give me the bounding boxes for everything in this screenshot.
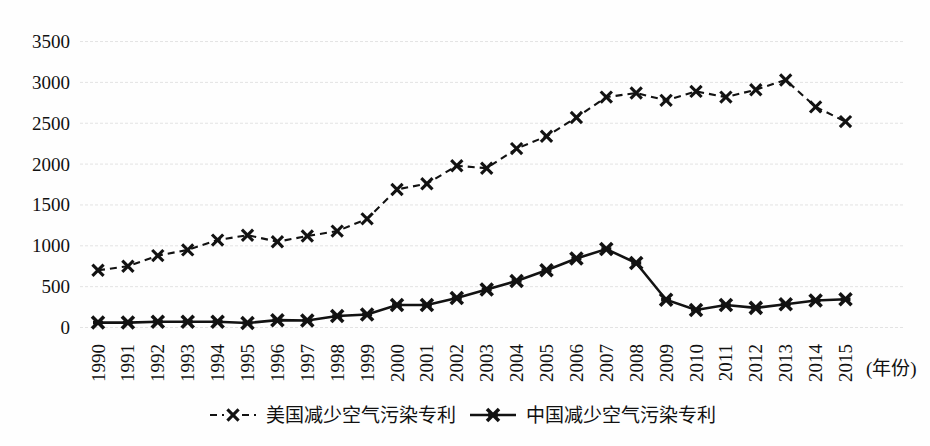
x-axis-unit-label-text: (年份) [866,358,917,380]
x-tick-label: 1992 [147,344,168,382]
y-axis-tick-labels: 0500100015002000250030003500 [32,31,70,338]
x-tick-label: 2002 [446,344,467,382]
x-tick-label: 2004 [506,344,527,383]
x-tick-label: 1999 [357,344,378,382]
x-axis-unit-label: (年份) [866,358,917,380]
x-tick-label: 2005 [536,344,557,382]
x-tick-label: 1994 [207,344,228,383]
y-tick-label: 1500 [32,194,70,215]
x-axis-tick-labels: 1990199119921993199419951996199719981999… [88,344,857,383]
x-tick-label: 2014 [805,344,826,383]
x-tick-label: 2003 [476,344,497,382]
x-tick-label: 2011 [715,344,736,381]
y-tick-label: 2500 [32,113,70,134]
series-line [98,80,846,270]
x-tick-label: 2015 [835,344,856,382]
legend-item-label: 美国减少空气污染专利 [266,405,456,426]
x-tick-label: 2001 [416,344,437,382]
x-tick-label: 1996 [267,344,288,382]
x-tick-label: 1997 [297,344,318,382]
x-tick-label: 2007 [596,344,617,382]
x-tick-label: 2010 [686,344,707,382]
series-line [98,249,846,323]
legend-item-label: 中国减少空气污染专利 [526,405,716,426]
x-tick-label: 2006 [566,344,587,382]
x-tick-label: 1990 [88,344,109,382]
x-tick-label: 2012 [745,344,766,382]
y-tick-label: 1000 [32,235,70,256]
x-tick-label: 2009 [656,344,677,382]
series-china-air-pollution-patents [92,243,852,329]
chart-container: 0500100015002000250030003500 19901991199… [0,0,930,446]
x-tick-label: 1998 [327,344,348,382]
x-tick-label: 2000 [387,344,408,382]
x-tick-label: 2013 [775,344,796,382]
y-tick-label: 500 [42,276,71,297]
line-chart: 0500100015002000250030003500 19901991199… [0,0,930,446]
y-tick-label: 3500 [32,31,70,52]
y-tick-label: 3000 [32,72,70,93]
y-tick-label: 2000 [32,154,70,175]
x-tick-label: 1993 [177,344,198,382]
y-tick-label: 0 [61,317,71,338]
x-tick-label: 2008 [626,344,647,382]
chart-legend: 美国减少空气污染专利中国减少空气污染专利 [210,405,716,426]
x-tick-label: 1995 [237,344,258,382]
x-tick-label: 1991 [117,344,138,382]
